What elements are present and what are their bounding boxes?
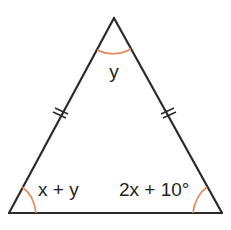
isosceles-triangle-diagram: y x + y 2x + 10° xyxy=(0,0,231,230)
bottom-right-angle-arc-icon xyxy=(193,187,207,213)
apex-angle-arc-icon xyxy=(97,49,131,54)
bottom-left-angle-arc-icon xyxy=(22,187,36,213)
bottom-right-angle-label: 2x + 10° xyxy=(119,179,189,200)
apex-angle-label: y xyxy=(109,61,119,82)
bottom-left-angle-label: x + y xyxy=(38,179,79,200)
